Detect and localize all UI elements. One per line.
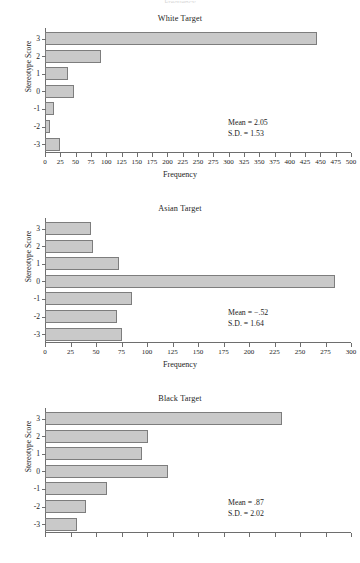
y-axis-label: Stereotype Score <box>24 397 33 497</box>
bar[interactable] <box>45 430 148 443</box>
bar[interactable] <box>45 85 74 98</box>
x-tick-label: 200 <box>244 348 255 356</box>
bar[interactable] <box>45 67 68 80</box>
y-tick-label: 3 <box>36 32 40 45</box>
x-tick-mark <box>91 153 92 157</box>
bar[interactable] <box>45 412 282 425</box>
bar-row[interactable]: 3 <box>45 32 351 45</box>
y-tick-mark <box>42 39 46 40</box>
x-tick-mark <box>45 343 46 347</box>
bar[interactable] <box>45 500 86 513</box>
bar[interactable] <box>45 222 91 235</box>
bar[interactable] <box>45 50 101 63</box>
bar-row[interactable]: 0 <box>45 465 351 478</box>
y-tick-label: 0 <box>36 465 40 478</box>
y-tick-mark <box>42 436 46 437</box>
y-tick-mark <box>42 109 46 110</box>
bar[interactable] <box>45 482 107 495</box>
x-tick-mark <box>351 343 352 347</box>
bar-row[interactable]: -1 <box>45 102 351 115</box>
bar[interactable] <box>45 102 54 115</box>
mean-label: Mean = .87 <box>228 498 264 509</box>
bar-row[interactable]: 3 <box>45 222 351 235</box>
plot-area: 3210-1-2-3025507510012515017520022525027… <box>45 218 351 342</box>
bar-row[interactable]: -1 <box>45 482 351 495</box>
x-tick-mark <box>275 533 276 537</box>
sd-label: S.D. = 2.02 <box>228 509 264 520</box>
y-tick-label: 1 <box>36 447 40 460</box>
bar[interactable] <box>45 465 168 478</box>
x-tick-mark <box>224 343 225 347</box>
bar[interactable] <box>45 138 60 151</box>
bar-row[interactable]: 0 <box>45 85 351 98</box>
chart-panel-black-target: Black Target Stereotype Score 3210-1-2-3… <box>0 380 360 563</box>
y-tick-mark <box>42 334 46 335</box>
bar[interactable] <box>45 257 119 270</box>
y-tick-mark <box>42 74 46 75</box>
x-tick-label: 0 <box>43 348 47 356</box>
x-tick-label: 175 <box>218 348 229 356</box>
bar-row[interactable]: 2 <box>45 240 351 253</box>
y-tick-label: -2 <box>34 500 40 513</box>
y-tick-label: -3 <box>34 518 40 531</box>
y-tick-mark <box>42 317 46 318</box>
bar-row[interactable]: 2 <box>45 430 351 443</box>
bar[interactable] <box>45 120 50 133</box>
bar[interactable] <box>45 447 142 460</box>
x-tick-label: 325 <box>239 158 250 166</box>
x-tick-mark <box>122 153 123 157</box>
x-tick-mark <box>137 153 138 157</box>
x-tick-mark <box>198 533 199 537</box>
bar-row[interactable]: -2 <box>45 120 351 133</box>
bar-row[interactable]: 1 <box>45 257 351 270</box>
chart-panel-asian-target: Asian Target Stereotype Score 3210-1-2-3… <box>0 190 360 380</box>
bar-row[interactable]: -1 <box>45 292 351 305</box>
x-tick-label: 125 <box>116 158 127 166</box>
y-tick-mark <box>42 454 46 455</box>
x-tick-label: 350 <box>254 158 265 166</box>
x-tick-mark <box>249 343 250 347</box>
bar[interactable] <box>45 32 317 45</box>
chart-title: Asian Target <box>0 204 360 213</box>
bar[interactable] <box>45 310 117 323</box>
bar-row[interactable]: 3 <box>45 412 351 425</box>
y-tick-label: -1 <box>34 102 40 115</box>
x-tick-label: 125 <box>167 348 178 356</box>
y-tick-mark <box>42 471 46 472</box>
bar[interactable] <box>45 328 122 341</box>
y-tick-label: 2 <box>36 50 40 63</box>
x-tick-mark <box>76 153 77 157</box>
x-tick-mark <box>351 533 352 537</box>
y-tick-mark <box>42 127 46 128</box>
x-tick-label: 50 <box>72 158 79 166</box>
x-tick-label: 500 <box>346 158 357 166</box>
bar[interactable] <box>45 240 93 253</box>
sd-label: S.D. = 1.64 <box>228 319 268 330</box>
bar-row[interactable]: -2 <box>45 500 351 513</box>
x-tick-mark <box>60 153 61 157</box>
bar-row[interactable]: -3 <box>45 518 351 531</box>
bar[interactable] <box>45 275 335 288</box>
x-tick-mark <box>249 533 250 537</box>
bar-row[interactable]: -3 <box>45 328 351 341</box>
bar[interactable] <box>45 518 77 531</box>
bar[interactable] <box>45 292 132 305</box>
bar-row[interactable]: 1 <box>45 67 351 80</box>
bar-row[interactable]: 0 <box>45 275 351 288</box>
x-tick-mark <box>244 153 245 157</box>
bar-row[interactable]: 1 <box>45 447 351 460</box>
y-axis-label: Stereotype Score <box>24 17 33 117</box>
chart-title: White Target <box>0 14 360 23</box>
y-tick-label: -1 <box>34 482 40 495</box>
bar-row[interactable]: -2 <box>45 310 351 323</box>
x-tick-mark <box>336 153 337 157</box>
x-tick-mark <box>106 153 107 157</box>
x-tick-mark <box>96 533 97 537</box>
y-tick-label: 3 <box>36 412 40 425</box>
y-tick-mark <box>42 144 46 145</box>
x-tick-label: 375 <box>269 158 280 166</box>
bar-row[interactable]: -3 <box>45 138 351 151</box>
x-tick-mark <box>45 153 46 157</box>
bar-row[interactable]: 2 <box>45 50 351 63</box>
x-tick-label: 475 <box>330 158 341 166</box>
